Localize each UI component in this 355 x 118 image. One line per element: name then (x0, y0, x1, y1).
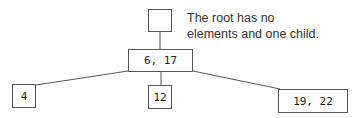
root-node (148, 9, 172, 32)
edge-mid-left (36, 71, 128, 85)
leaf-node-19-22: 19, 22 (278, 89, 348, 113)
root-caption: The root has no elements and one child. (187, 10, 319, 42)
leaf-node-4: 4 (12, 84, 36, 108)
leaf-node-12: 12 (148, 85, 172, 109)
caption-line-2: elements and one child. (187, 26, 319, 42)
edge-mid-right (193, 71, 280, 89)
caption-line-1: The root has no (187, 10, 319, 26)
node-6-17: 6, 17 (128, 49, 193, 72)
